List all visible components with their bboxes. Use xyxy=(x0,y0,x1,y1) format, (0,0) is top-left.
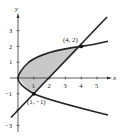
parabola-upper-extension xyxy=(81,41,108,46)
x-tick-label-3: 3 xyxy=(63,82,66,89)
x-tick-label-1: 1 xyxy=(32,82,35,89)
intersection-point-4-2 xyxy=(79,45,83,49)
intersection-point-1-neg1 xyxy=(32,92,36,96)
x-tick-label-4: 4 xyxy=(79,82,83,89)
y-tick-label-3: 3 xyxy=(9,27,12,34)
y-axis-label: y xyxy=(14,5,19,13)
x-tick-label-2: 2 xyxy=(48,82,51,89)
x-axis-label: x xyxy=(112,74,117,82)
x-axis-arrow-icon xyxy=(107,77,112,80)
y-tick-label-neg1: −1 xyxy=(5,90,12,97)
point-label-1-neg1: (1, −1) xyxy=(27,98,46,106)
y-tick-label-1: 1 xyxy=(9,58,12,65)
region-between-curves-chart: x y 1 2 3 4 5 3 2 1 −1 −3 (4, 2) (1, −1) xyxy=(0,0,125,137)
y-tick-label-neg3: −3 xyxy=(5,122,12,129)
x-tick-label-5: 5 xyxy=(95,82,98,89)
y-axis-arrow-icon xyxy=(17,13,20,18)
point-label-4-2: (4, 2) xyxy=(63,36,78,44)
y-tick-label-2: 2 xyxy=(9,43,12,50)
